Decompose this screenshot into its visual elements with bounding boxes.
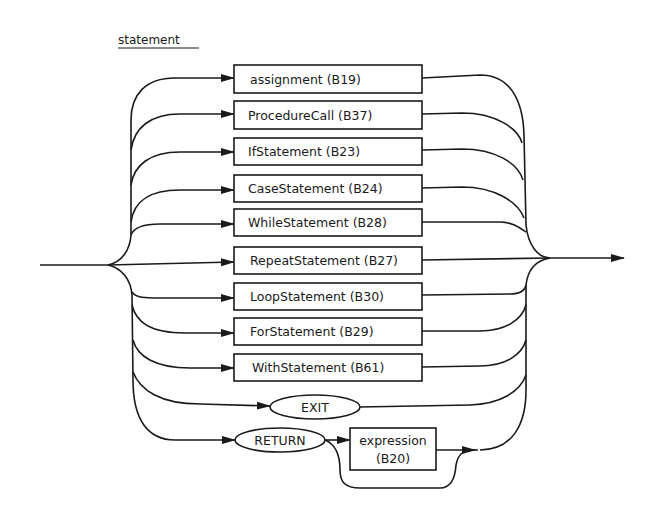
label-loop-statement: LoopStatement (B30) — [250, 289, 384, 304]
label-for-statement: ForStatement (B29) — [250, 324, 374, 339]
box-loop-statement: LoopStatement (B30) — [234, 283, 422, 310]
terminal-return: RETURN — [235, 428, 325, 452]
box-for-statement: ForStatement (B29) — [234, 318, 422, 345]
box-case-statement: CaseStatement (B24) — [234, 175, 422, 202]
terminal-exit: EXIT — [270, 395, 360, 419]
box-repeat-statement: RepeatStatement (B27) — [234, 247, 422, 274]
syntax-diagram: statement ass — [0, 0, 654, 518]
label-expression: expression — [359, 433, 426, 448]
label-if-statement: IfStatement (B23) — [248, 144, 360, 159]
label-with-statement: WithStatement (B61) — [252, 360, 384, 375]
box-expression: expression (B20) — [350, 428, 436, 470]
right-merges-up — [422, 75, 550, 260]
diagram-title: statement — [118, 33, 199, 48]
label-procedure-call: ProcedureCall (B37) — [248, 108, 372, 123]
box-procedure-call: ProcedureCall (B37) — [234, 101, 422, 129]
left-branches-up — [108, 78, 234, 265]
label-repeat-statement: RepeatStatement (B27) — [250, 253, 398, 268]
label-assignment: assignment (B19) — [250, 72, 361, 87]
box-assignment: assignment (B19) — [234, 65, 422, 93]
box-with-statement: WithStatement (B61) — [234, 354, 422, 381]
label-exit: EXIT — [301, 400, 329, 415]
label-while-statement: WhileStatement (B28) — [248, 215, 387, 230]
title-text: statement — [118, 33, 180, 47]
label-case-statement: CaseStatement (B24) — [248, 181, 383, 196]
box-if-statement: IfStatement (B23) — [234, 138, 422, 165]
box-while-statement: WhileStatement (B28) — [234, 209, 422, 236]
label-expression-ref: (B20) — [376, 451, 410, 466]
label-return: RETURN — [254, 433, 305, 448]
